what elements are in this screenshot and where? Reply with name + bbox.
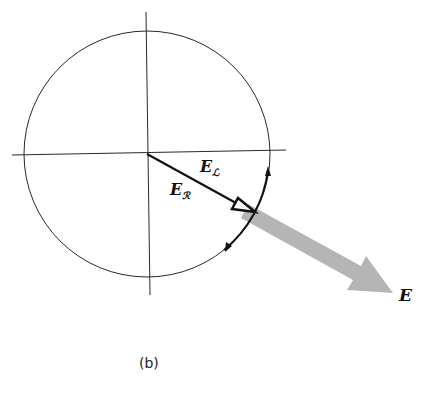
component-vector bbox=[147, 154, 236, 203]
component-vector-head bbox=[232, 198, 255, 212]
resultant-vector-e bbox=[241, 204, 393, 293]
label-e-l: Eℒ bbox=[200, 157, 219, 178]
label-e-r-main: E bbox=[170, 180, 182, 199]
label-e-l-sub: ℒ bbox=[212, 167, 219, 178]
phasor-diagram bbox=[0, 0, 421, 408]
arc-arrowhead-up bbox=[265, 166, 271, 176]
label-e-l-main: E bbox=[200, 157, 212, 176]
label-e-r-sub: ℛ bbox=[182, 190, 190, 201]
label-e-r: Eℛ bbox=[170, 180, 190, 201]
label-e: E bbox=[399, 285, 412, 305]
figure-caption: (b) bbox=[139, 355, 159, 371]
